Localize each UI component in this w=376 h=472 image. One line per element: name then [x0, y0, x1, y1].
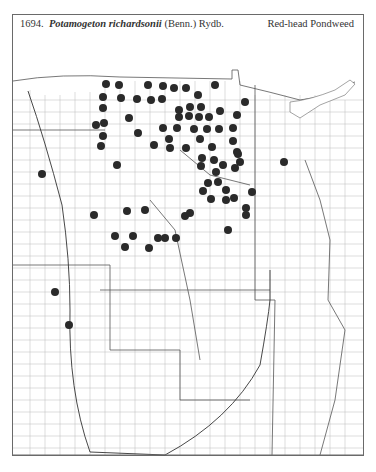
occurrence-dot — [230, 194, 238, 202]
occurrence-dot — [158, 95, 166, 103]
occurrence-dot — [166, 144, 174, 152]
occurrence-dot — [99, 104, 107, 112]
occurrence-dot — [111, 232, 119, 240]
occurrence-dot — [170, 84, 178, 92]
occurrence-dot — [97, 142, 105, 150]
occurrence-dot — [129, 232, 137, 240]
distribution-map — [0, 0, 376, 472]
occurrence-dot — [194, 91, 202, 99]
occurrence-dot — [242, 211, 250, 219]
occurrence-dot — [241, 98, 249, 106]
occurrence-dot — [233, 111, 241, 119]
occurrence-dot — [134, 129, 142, 137]
state-lines — [13, 85, 345, 455]
occurrence-dot — [197, 162, 205, 170]
occurrence-dot — [65, 321, 73, 329]
occurrence-dot — [222, 196, 230, 204]
occurrence-dot — [196, 135, 204, 143]
occurrence-dot — [159, 124, 167, 132]
occurrence-dot — [38, 170, 46, 178]
occurrence-dot — [248, 188, 256, 196]
occurrence-dot — [210, 156, 218, 164]
occurrence-dot — [231, 164, 239, 172]
occurrence-dot — [161, 234, 169, 242]
occurrence-dot — [165, 135, 173, 143]
occurrence-dot — [159, 82, 167, 90]
occurrence-dot — [212, 168, 220, 176]
occurrence-dot — [99, 132, 107, 140]
occurrence-dot — [102, 80, 110, 88]
occurrence-dot — [115, 81, 123, 89]
occurrence-dot — [224, 226, 232, 234]
occurrence-dot — [175, 106, 183, 114]
occurrence-dot — [197, 103, 205, 111]
occurrence-dot — [229, 124, 237, 132]
occurrence-dot — [133, 95, 141, 103]
occurrence-dot — [182, 144, 190, 152]
occurrence-dot — [280, 158, 288, 166]
occurrence-dot — [117, 94, 125, 102]
county-grid — [13, 80, 363, 455]
occurrence-dot — [186, 103, 194, 111]
occurrence-dot — [190, 125, 198, 133]
occurrence-dot — [100, 119, 108, 127]
occurrence-dot — [186, 209, 194, 217]
occurrence-dot — [242, 204, 250, 212]
occurrence-dot — [145, 244, 153, 252]
occurrence-dot — [173, 124, 181, 132]
occurrence-dot — [154, 234, 162, 242]
occurrence-dot — [204, 179, 212, 187]
occurrence-dot — [219, 161, 227, 169]
occurrence-dot — [195, 113, 203, 121]
occurrence-dot — [92, 121, 100, 129]
occurrence-dot — [207, 195, 215, 203]
occurrence-dot — [185, 112, 193, 120]
occurrence-dot — [182, 84, 190, 92]
occurrence-dot — [229, 137, 237, 145]
occurrence-dot — [198, 154, 206, 162]
occurrence-dots — [38, 80, 288, 329]
occurrence-dot — [205, 113, 213, 121]
occurrence-dot — [175, 113, 183, 121]
occurrence-dot — [144, 81, 152, 89]
occurrence-dot — [141, 206, 149, 214]
occurrence-dot — [215, 125, 223, 133]
occurrence-dot — [234, 150, 242, 158]
occurrence-dot — [113, 161, 121, 169]
occurrence-dot — [214, 178, 222, 186]
occurrence-dot — [121, 243, 129, 251]
occurrence-dot — [125, 114, 133, 122]
occurrence-dot — [208, 143, 216, 151]
occurrence-dot — [51, 288, 59, 296]
occurrence-dot — [222, 186, 230, 194]
occurrence-dot — [90, 211, 98, 219]
occurrence-dot — [211, 81, 219, 89]
occurrence-dot — [123, 207, 131, 215]
occurrence-dot — [150, 141, 158, 149]
occurrence-dot — [147, 96, 155, 104]
occurrence-dot — [199, 187, 207, 195]
occurrence-dot — [203, 125, 211, 133]
occurrence-dot — [99, 93, 107, 101]
occurrence-dot — [172, 234, 180, 242]
occurrence-dot — [216, 107, 224, 115]
